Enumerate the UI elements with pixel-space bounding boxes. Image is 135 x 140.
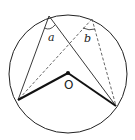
chord-a-q <box>49 16 116 106</box>
chord-a-p <box>18 16 49 100</box>
angle-label-b: b <box>84 32 91 45</box>
center-point <box>66 71 70 75</box>
angle-arc-b <box>83 28 95 30</box>
center-label: O <box>64 78 73 92</box>
angle-arc-a <box>45 25 56 29</box>
angle-label-a: a <box>48 31 55 44</box>
geometry-diagram: a b O <box>0 0 135 140</box>
radius-o-q <box>68 73 116 106</box>
radius-o-p <box>18 73 68 100</box>
